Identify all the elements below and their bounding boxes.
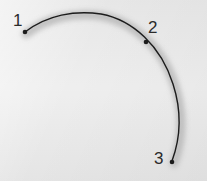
- arc-diagram: [0, 0, 207, 181]
- point-marker-3: [170, 160, 175, 165]
- point-label-2: 2: [148, 19, 157, 36]
- point-marker-1: [23, 30, 28, 35]
- point-label-3: 3: [154, 150, 163, 167]
- point-label-1: 1: [13, 12, 22, 29]
- arc-halo-shadow: [26, 15, 181, 163]
- figure-canvas: 1 2 3: [0, 0, 207, 181]
- point-marker-2: [144, 40, 149, 45]
